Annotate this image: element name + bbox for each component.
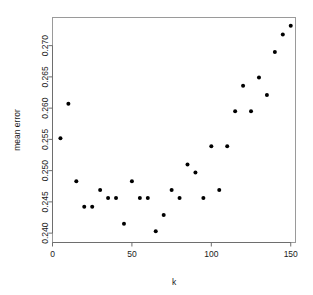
data-point bbox=[98, 188, 102, 192]
data-point bbox=[66, 102, 70, 106]
data-point bbox=[122, 222, 126, 226]
data-point bbox=[225, 144, 229, 148]
data-point bbox=[186, 162, 190, 166]
data-point bbox=[130, 179, 134, 183]
data-point bbox=[82, 205, 86, 209]
y-tick-label: 0.250 bbox=[40, 160, 50, 182]
y-tick-label: 0.260 bbox=[40, 97, 50, 119]
data-point bbox=[281, 32, 285, 36]
data-point bbox=[58, 136, 62, 140]
data-point bbox=[233, 109, 237, 113]
data-point bbox=[90, 205, 94, 209]
data-point bbox=[249, 109, 253, 113]
y-axis-title: mean error bbox=[12, 109, 22, 151]
plot-border bbox=[53, 18, 296, 243]
data-point bbox=[138, 196, 142, 200]
data-point bbox=[217, 188, 221, 192]
x-tick-label: 50 bbox=[127, 249, 137, 259]
y-tick-label: 0.245 bbox=[40, 191, 50, 213]
data-point bbox=[146, 196, 150, 200]
data-points bbox=[58, 24, 292, 234]
y-tick-label: 0.265 bbox=[40, 66, 50, 88]
data-point bbox=[209, 144, 213, 148]
x-axis: 050100150 bbox=[50, 243, 298, 259]
data-point bbox=[289, 24, 293, 28]
data-point bbox=[193, 171, 197, 175]
data-point bbox=[106, 196, 110, 200]
x-axis-title: k bbox=[172, 277, 177, 287]
scatter-plot-figure: 0.2400.2450.2500.2550.2600.2650.270 0501… bbox=[0, 0, 313, 295]
plot-frame bbox=[53, 18, 296, 243]
data-point bbox=[114, 196, 118, 200]
data-point bbox=[241, 84, 245, 88]
y-tick-label: 0.240 bbox=[40, 222, 50, 244]
data-point bbox=[273, 50, 277, 54]
data-point bbox=[74, 179, 78, 183]
data-point bbox=[257, 76, 261, 80]
y-tick-label: 0.255 bbox=[40, 128, 50, 150]
data-point bbox=[265, 93, 269, 97]
data-point bbox=[201, 196, 205, 200]
y-axis: 0.2400.2450.2500.2550.2600.2650.270 bbox=[40, 35, 53, 244]
x-tick-label: 0 bbox=[50, 249, 55, 259]
data-point bbox=[162, 213, 166, 217]
plot-canvas: 0.2400.2450.2500.2550.2600.2650.270 0501… bbox=[0, 0, 313, 295]
data-point bbox=[170, 188, 174, 192]
x-tick-label: 100 bbox=[204, 249, 218, 259]
y-tick-label: 0.270 bbox=[40, 35, 50, 57]
data-point bbox=[154, 229, 158, 233]
x-tick-label: 150 bbox=[284, 249, 298, 259]
data-point bbox=[178, 196, 182, 200]
